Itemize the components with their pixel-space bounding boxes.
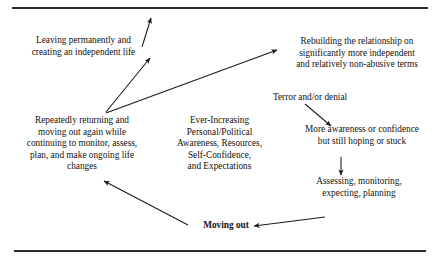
node-line: expecting, planning bbox=[290, 188, 428, 200]
arrow-assessing-to-moving bbox=[254, 217, 325, 226]
node-line: Repeatedly returning and bbox=[6, 115, 158, 127]
node-ever-increasing-awareness: Ever-Increasing Personal/Political Aware… bbox=[157, 115, 282, 173]
arrow-repeatedly-to-rebuilding bbox=[106, 50, 277, 113]
node-line: significantly more independent bbox=[278, 48, 436, 60]
node-rebuilding-relationship: Rebuilding the relationship on significa… bbox=[278, 36, 436, 71]
node-line: Self-Confidence, bbox=[157, 150, 282, 162]
node-leaving-permanently: Leaving permanently and creating an inde… bbox=[12, 35, 155, 58]
node-line: Awareness, Resources, bbox=[157, 138, 282, 150]
arrow-terror-to-more bbox=[305, 104, 331, 126]
node-line: Rebuilding the relationship on bbox=[278, 36, 436, 48]
node-terror-or-denial: Terror and/or denial bbox=[258, 92, 362, 104]
node-assessing-monitoring: Assessing, monitoring, expecting, planni… bbox=[290, 176, 428, 199]
node-line: changes bbox=[6, 161, 158, 173]
node-line: More awareness or confidence bbox=[288, 124, 436, 136]
arrow-moving-to-repeatedly bbox=[104, 181, 188, 225]
node-line: Assessing, monitoring, bbox=[290, 176, 428, 188]
node-line: Terror and/or denial bbox=[258, 92, 362, 104]
arrow-repeatedly-to-leaving bbox=[106, 58, 150, 112]
node-line: and relatively non-abusive terms bbox=[278, 59, 436, 71]
node-line: and Expectations bbox=[157, 161, 282, 173]
node-line: continuing to monitor, assess, bbox=[6, 138, 158, 150]
node-line: moving out again while bbox=[6, 127, 158, 139]
node-line: Personal/Political bbox=[157, 127, 282, 139]
node-line: Moving out bbox=[193, 220, 259, 232]
process-cycle-diagram: Leaving permanently and creating an inde… bbox=[0, 0, 442, 260]
node-line: creating an independent life bbox=[12, 47, 155, 59]
node-line: Ever-Increasing bbox=[157, 115, 282, 127]
node-repeatedly-returning: Repeatedly returning and moving out agai… bbox=[6, 115, 158, 173]
node-line: plan, and make ongoing life bbox=[6, 150, 158, 162]
node-more-awareness-or-confidence: More awareness or confidence but still h… bbox=[288, 124, 436, 147]
node-moving-out: Moving out bbox=[193, 220, 259, 232]
node-line: Leaving permanently and bbox=[12, 35, 155, 47]
node-line: but still hoping or stuck bbox=[288, 136, 436, 148]
